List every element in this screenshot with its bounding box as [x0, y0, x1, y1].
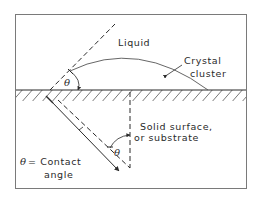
upper-angle-arc [70, 71, 79, 90]
crystal-cluster-label-line2: cluster [190, 68, 227, 79]
lower-tick-mark [79, 127, 83, 130]
crystal-cluster-label-line1: Crystal [184, 55, 222, 66]
legend-theta-symbol: θ [20, 156, 26, 167]
contact-angle-label-line2: angle [44, 169, 73, 180]
upper-theta-label: θ [64, 77, 70, 88]
contact-angle-diagram: θ θ Liquid Crystal cluster Solid surface… [0, 0, 256, 202]
solid-surface-label-line2: or substrate [134, 132, 199, 143]
contact-angle-label-line1: = Contact [28, 156, 81, 167]
solid-surface-label-line1: Solid surface, [140, 121, 213, 132]
crystal-cluster-leader [167, 65, 182, 75]
liquid-label: Liquid [118, 37, 150, 48]
tangent-dashed-line [50, 24, 115, 90]
direction-arrow-tail [46, 96, 53, 103]
lower-theta-label: θ [114, 147, 120, 158]
